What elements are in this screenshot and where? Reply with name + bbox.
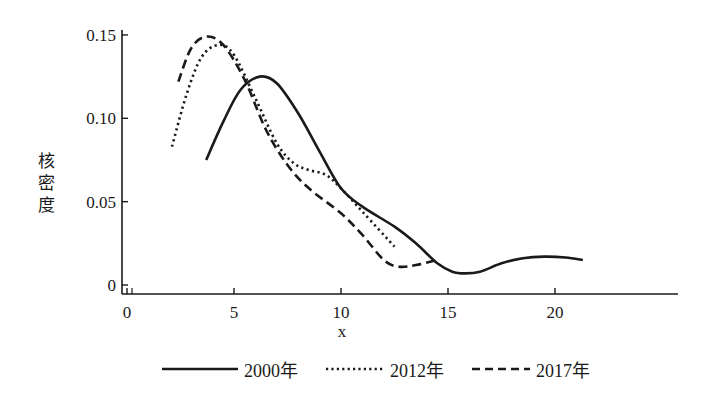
legend-item-2017: 2017年 [470, 356, 590, 382]
x-tick-label: 20 [547, 303, 564, 322]
y-tick-label: 0.15 [86, 26, 116, 45]
legend-item-2012: 2012年 [324, 356, 444, 382]
legend-label: 2012年 [390, 356, 444, 382]
solid-line-swatch-icon [162, 364, 240, 374]
x-tick-label: 5 [230, 303, 239, 322]
y-tick-label: 0.05 [86, 193, 116, 212]
dotted-line-swatch-icon [324, 364, 386, 374]
y-tick-label: 0 [108, 276, 117, 295]
axes: 00.050.100.1505101520x [86, 26, 678, 341]
kernel-density-chart: 00.050.100.1505101520x 核密度 [0, 0, 713, 350]
legend-label: 2000年 [244, 356, 298, 382]
dashed-line-swatch-icon [470, 364, 532, 374]
plot-area [172, 37, 583, 274]
x-tick-label: 0 [123, 303, 132, 322]
legend-label: 2017年 [536, 356, 590, 382]
series-line-2012 [172, 45, 395, 247]
series-line-2017 [178, 37, 437, 267]
x-axis-label: x [338, 322, 347, 341]
legend: 2000年 2012年 2017年 [162, 356, 616, 382]
y-tick-label: 0.10 [86, 109, 116, 128]
y-axis-label: 核密度 [38, 152, 55, 215]
series-line-2000 [206, 76, 583, 273]
x-tick-label: 15 [440, 303, 457, 322]
x-tick-label: 10 [333, 303, 350, 322]
legend-item-2000: 2000年 [162, 356, 298, 382]
